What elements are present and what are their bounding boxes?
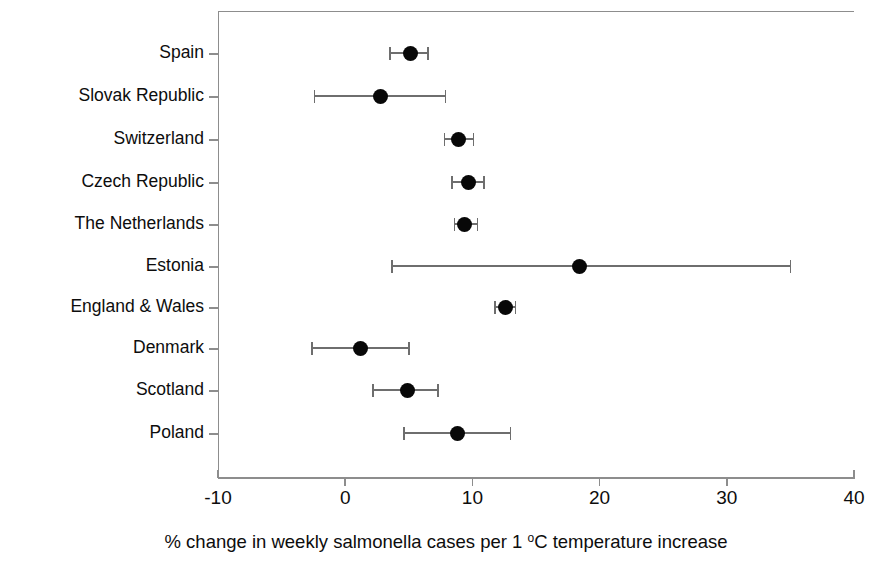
y-axis-label-estonia: Estonia [146,257,204,275]
y-tick [209,182,219,184]
y-axis-label-czech-republic: Czech Republic [81,173,204,191]
data-point-switzerland [451,132,466,147]
y-tick [209,307,219,309]
x-axis-line [218,477,855,479]
x-tick-label: 10 [437,488,507,507]
error-cap-lower-estonia [391,260,393,273]
y-axis-label-the-netherlands: The Netherlands [75,215,204,233]
y-axis-label-denmark: Denmark [133,339,204,357]
y-tick [209,53,219,55]
x-tick [217,470,219,478]
y-tick [209,139,219,141]
data-point-scotland [400,383,415,398]
y-axis-label-poland: Poland [150,424,205,442]
x-tick [726,478,728,486]
error-cap-lower-the-netherlands [454,218,456,231]
x-axis-caption: % change in weekly salmonella cases per … [0,532,892,552]
error-cap-upper-estonia [790,260,792,273]
error-cap-lower-slovak-republic [314,90,316,103]
y-axis-label-slovak-republic: Slovak Republic [79,87,204,105]
x-axis-caption-prefix: % change in weekly salmonella cases per … [165,531,528,552]
error-cap-upper-slovak-republic [445,90,447,103]
error-cap-lower-poland [403,427,405,440]
error-cap-lower-czech-republic [451,176,453,189]
x-tick-label: 20 [565,488,635,507]
x-tick [853,470,855,478]
error-cap-upper-scotland [437,384,439,397]
error-cap-lower-england-wales [494,301,496,314]
x-tick [344,478,346,486]
x-tick [472,478,474,486]
error-cap-upper-spain [427,47,429,60]
y-axis-category-labels: SpainSlovak RepublicSwitzerlandCzech Rep… [0,0,204,478]
y-tick [209,96,219,98]
x-axis-caption-suffix: C temperature increase [534,531,727,552]
x-tick-label: 0 [310,488,380,507]
y-tick [209,390,219,392]
y-tick [209,266,219,268]
error-cap-upper-denmark [408,342,410,355]
y-tick [209,433,219,435]
data-point-estonia [572,259,587,274]
data-point-england-wales [498,300,513,315]
error-cap-upper-czech-republic [483,176,485,189]
y-axis-label-spain: Spain [159,44,204,62]
y-axis-label-england-wales: England & Wales [70,298,204,316]
data-point-denmark [353,341,368,356]
error-cap-lower-scotland [372,384,374,397]
salmonella-temperature-forest-plot: SpainSlovak RepublicSwitzerlandCzech Rep… [0,0,892,585]
data-point-poland [450,426,465,441]
error-cap-lower-spain [389,47,391,60]
x-tick-label: 40 [819,488,889,507]
x-tick-label: 30 [692,488,762,507]
data-point-the-netherlands [457,217,472,232]
data-point-slovak-republic [373,89,388,104]
plot-frame [218,11,854,478]
data-point-czech-republic [461,175,476,190]
x-tick-label: -10 [183,488,253,507]
x-tick [599,478,601,486]
error-cap-lower-switzerland [444,133,446,146]
error-cap-upper-poland [510,427,512,440]
y-axis-label-scotland: Scotland [136,381,204,399]
y-tick [209,348,219,350]
error-cap-upper-switzerland [473,133,475,146]
error-cap-lower-denmark [311,342,313,355]
y-axis-label-switzerland: Switzerland [114,130,204,148]
y-tick [209,224,219,226]
error-cap-upper-the-netherlands [477,218,479,231]
error-cap-upper-england-wales [515,301,517,314]
error-bar-estonia [392,265,790,267]
data-point-spain [403,46,418,61]
